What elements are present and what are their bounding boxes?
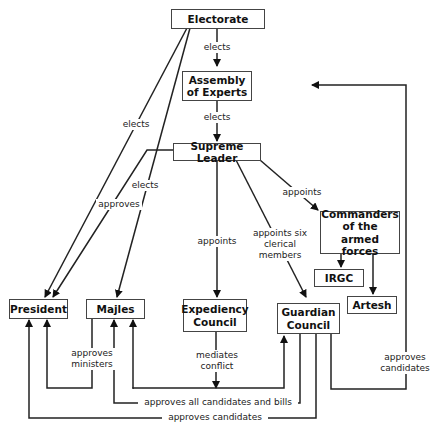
- label-guardian-approves-assembly: approves candidates: [380, 352, 430, 374]
- node-supreme-leader: Supreme Leader: [173, 143, 261, 161]
- label-electorate-elects-president: elects: [120, 119, 152, 130]
- label-leader-appoints-commanders: appoints: [280, 187, 324, 198]
- node-majles: Majles: [86, 299, 145, 319]
- label-guardian-approves-president: approves candidates: [162, 412, 268, 423]
- label-electorate-elects-assembly: elects: [201, 42, 233, 53]
- label-leader-appoints-expediency: appoints: [195, 236, 239, 247]
- label-majles-approves-ministers: approves ministers: [64, 348, 120, 370]
- label-leader-appoints-guardian: appoints six clerical members: [250, 228, 310, 261]
- node-artesh: Artesh: [347, 296, 397, 314]
- label-electorate-elects-majles: elects: [129, 180, 161, 191]
- node-irgc: IRGC: [314, 269, 364, 287]
- label-assembly-elects-leader: elects: [201, 112, 233, 123]
- node-president: President: [9, 299, 68, 319]
- node-electorate: Electorate: [171, 9, 265, 29]
- node-assembly-of-experts: Assembly of Experts: [182, 71, 252, 101]
- node-expediency-council: Expediency Council: [183, 299, 247, 332]
- node-commanders-armed-forces: Commanders of the armed forces: [320, 211, 400, 254]
- label-leader-approves-president: approves: [96, 199, 142, 210]
- label-guardian-approves-majles: approves all candidates and bills: [138, 397, 298, 408]
- label-expediency-mediates-conflict: mediates conflict: [191, 350, 243, 372]
- node-guardian-council: Guardian Council: [277, 303, 340, 334]
